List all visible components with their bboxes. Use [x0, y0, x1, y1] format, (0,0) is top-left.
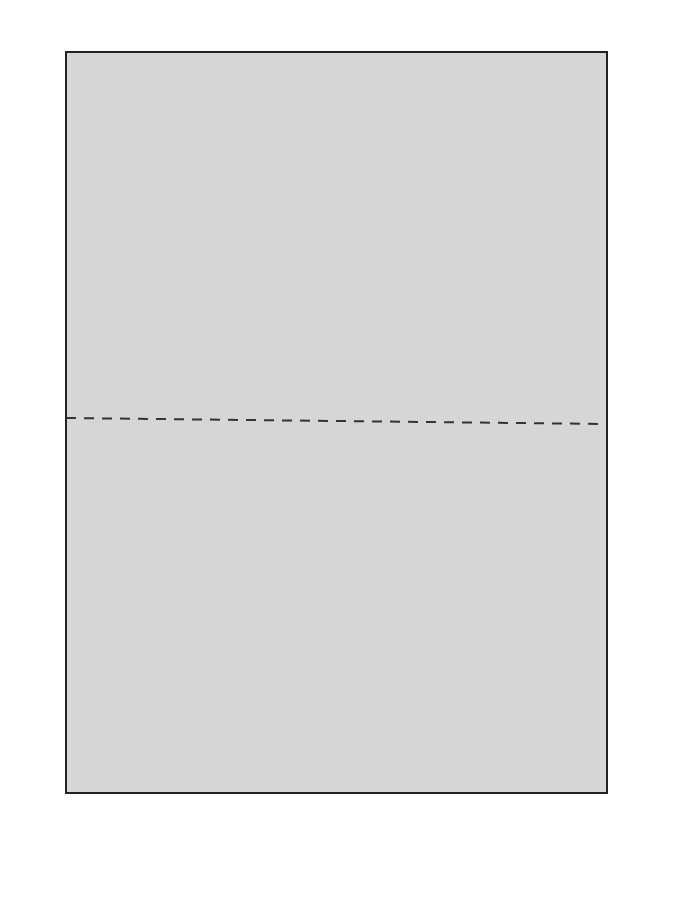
climograph — [0, 0, 688, 860]
